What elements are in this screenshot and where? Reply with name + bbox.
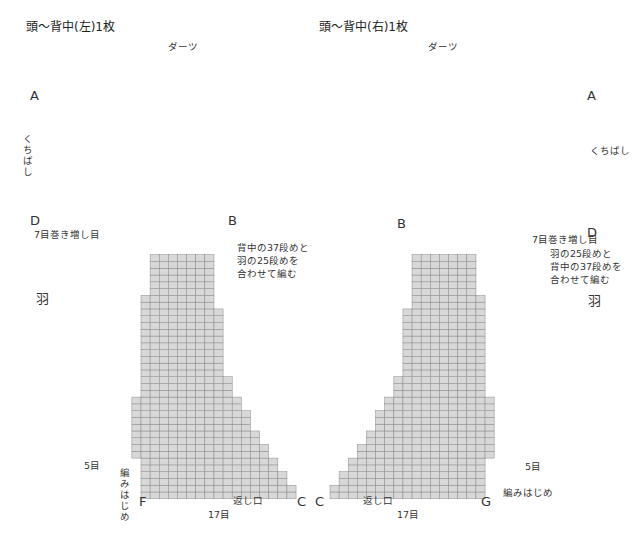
left-letter-b: B <box>228 213 237 228</box>
left-letter-c: C <box>297 494 306 509</box>
left-wing-width: 5目 <box>84 459 100 472</box>
right-join-note-line3: 合わせて編む <box>550 273 622 286</box>
right-letter-c: C <box>315 494 324 509</box>
left-join-note-line3: 合わせて編む <box>237 267 309 280</box>
right-letter-a: A <box>587 88 596 103</box>
left-beak-label: くちばし <box>20 134 34 178</box>
right-dart-label: ダーツ <box>428 40 458 53</box>
right-beak-label: くちばし <box>590 144 630 157</box>
left-dart-label: ダーツ <box>168 40 198 53</box>
right-wing-label: 羽 <box>588 290 601 309</box>
right-letter-b: B <box>397 216 406 231</box>
right-join-note-line1: 羽の25段めと <box>550 247 622 260</box>
left-opening-label: 返し口 <box>233 494 263 507</box>
right-increase-label: 7目巻き増し目 <box>532 233 598 246</box>
right-letter-g: G <box>481 494 491 509</box>
left-join-note: 背中の37段めと 羽の25段めを 合わせて編む <box>237 241 309 280</box>
right-join-note: 羽の25段めと 背中の37段めを 合わせて編む <box>550 247 622 286</box>
right-join-note-line2: 背中の37段めを <box>550 260 622 273</box>
right-start-label: 編みはじめ <box>503 486 553 499</box>
right-wing-width: 5目 <box>525 460 541 473</box>
left-letter-a: A <box>30 88 39 103</box>
left-wing-label: 羽 <box>36 288 49 307</box>
left-increase-label: 7目巻き増し目 <box>34 228 100 241</box>
left-join-note-line1: 背中の37段めと <box>237 241 309 254</box>
right-width-label: 17目 <box>397 508 419 521</box>
left-join-note-line2: 羽の25段めを <box>237 254 309 267</box>
left-letter-f: F <box>139 494 146 509</box>
left-start-label: 編みはじめ <box>117 468 131 523</box>
left-width-label: 17目 <box>208 508 230 521</box>
left-letter-d: D <box>30 213 40 228</box>
right-opening-label: 返し口 <box>363 494 393 507</box>
knitting-chart <box>0 0 635 534</box>
